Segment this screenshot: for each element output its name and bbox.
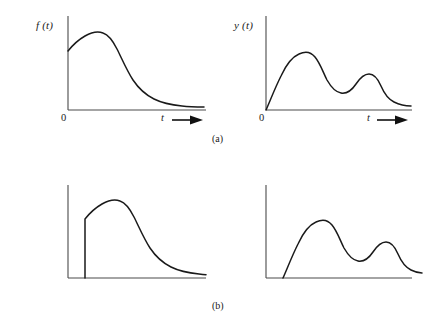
plot-f-of-t-canvas <box>0 0 215 132</box>
plot-f-of-t-minus-T-canvas <box>0 160 215 310</box>
x-axis-variable-label: t <box>367 112 370 123</box>
curve-y-of-t-minus-T <box>283 220 422 278</box>
curve-y-of-t <box>266 52 411 110</box>
curve-f-of-t <box>68 32 204 107</box>
x-axis-variable-label: t <box>161 112 164 123</box>
caption-a: (a) <box>212 133 223 144</box>
origin-tick-label: 0 <box>259 112 264 123</box>
y-axis-label: f (t) <box>36 19 53 31</box>
x-axis-arrow-icon <box>376 114 410 126</box>
y-axis-label: y (t) <box>234 19 253 31</box>
curve-f-of-t-minus-T <box>85 200 206 278</box>
plot-y-of-t: y (t) 0 t <box>215 0 435 132</box>
plot-y-of-t-minus-T: y(t –T) 0 T t <box>215 160 435 310</box>
plot-y-of-t-minus-T-canvas <box>215 160 435 310</box>
plot-f-of-t-minus-T: f (t –T) 0 T t <box>0 160 215 310</box>
origin-tick-label: 0 <box>61 112 66 123</box>
x-axis-arrow-icon <box>171 114 205 126</box>
time-invariance-figure: f (t) 0 t y (t) 0 t (a) f (t –T) 0 <box>0 0 435 324</box>
plot-f-of-t: f (t) 0 t <box>0 0 215 132</box>
caption-b: (b) <box>212 300 224 311</box>
